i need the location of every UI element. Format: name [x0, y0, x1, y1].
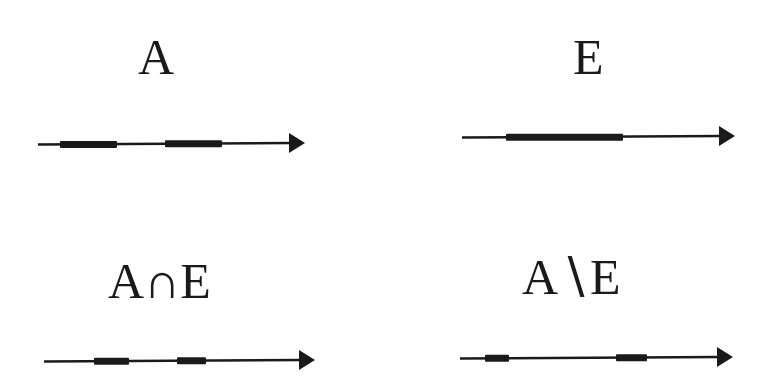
highlighted-interval	[94, 358, 129, 365]
arrow-head-icon	[719, 126, 735, 146]
axis-line	[44, 360, 301, 362]
highlighted-interval	[485, 355, 509, 362]
arrow-head-icon	[717, 347, 733, 367]
number-line-A-minus-E	[460, 347, 733, 367]
highlighted-interval	[60, 141, 117, 148]
number-line-A	[38, 133, 305, 153]
number-line-A-intersect-E	[44, 350, 315, 370]
arrow-head-icon	[299, 350, 315, 370]
number-line-E	[462, 126, 735, 146]
highlighted-interval	[506, 134, 623, 141]
highlighted-interval	[177, 357, 206, 364]
arrow-head-icon	[289, 133, 305, 153]
highlighted-interval	[616, 354, 647, 361]
highlighted-interval	[165, 140, 222, 147]
number-lines-diagram	[0, 0, 761, 389]
